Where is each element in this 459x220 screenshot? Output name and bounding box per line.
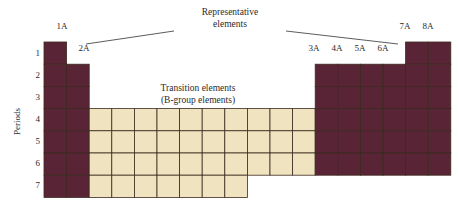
element-cell	[338, 86, 361, 108]
element-cell	[44, 153, 67, 175]
element-cell	[360, 109, 383, 131]
element-cell	[202, 153, 225, 175]
group-label-2A: 2A	[76, 43, 92, 54]
element-cell	[67, 131, 90, 153]
element-cell	[44, 109, 67, 131]
element-cell	[180, 109, 203, 131]
element-cell	[406, 86, 429, 108]
element-cell	[134, 153, 157, 175]
element-cell	[406, 131, 429, 153]
element-cell	[406, 153, 429, 175]
element-cell	[360, 131, 383, 153]
group-label-8A: 8A	[420, 21, 436, 32]
element-cell	[428, 86, 451, 108]
element-cell	[315, 86, 338, 108]
period-label-3: 3	[28, 92, 40, 103]
block-transition-block-period7	[89, 175, 247, 197]
element-cell	[225, 153, 248, 175]
element-cell	[383, 64, 406, 86]
element-cell	[225, 131, 248, 153]
element-cell	[180, 175, 203, 197]
element-cell	[315, 153, 338, 175]
element-cell	[180, 153, 203, 175]
element-cell	[67, 153, 90, 175]
element-cell	[225, 109, 248, 131]
element-cell	[383, 109, 406, 131]
element-cell	[338, 109, 361, 131]
element-cell	[360, 153, 383, 175]
element-cell	[134, 175, 157, 197]
block-groups-7A-8A	[406, 42, 451, 175]
element-cell	[293, 109, 316, 131]
element-cell	[247, 153, 270, 175]
element-cell	[270, 153, 293, 175]
element-cell	[112, 153, 135, 175]
block-group-2A	[67, 64, 90, 197]
block-transition-block	[89, 109, 315, 176]
element-cell	[315, 64, 338, 86]
periodic-table-grid	[0, 0, 459, 220]
element-cell	[293, 131, 316, 153]
element-cell	[338, 64, 361, 86]
group-label-1A: 1A	[54, 21, 70, 32]
element-cell	[383, 153, 406, 175]
element-cell	[360, 86, 383, 108]
element-cell	[112, 109, 135, 131]
element-cell	[157, 153, 180, 175]
element-cell	[157, 175, 180, 197]
element-cell	[338, 153, 361, 175]
element-cell	[44, 175, 67, 197]
element-cell	[406, 42, 429, 64]
period-label-6: 6	[28, 158, 40, 169]
group-label-6A: 6A	[375, 43, 391, 54]
group-label-3A: 3A	[306, 43, 322, 54]
element-cell	[134, 109, 157, 131]
element-cell	[67, 109, 90, 131]
element-cell	[315, 109, 338, 131]
element-cell	[44, 86, 67, 108]
element-cell	[89, 131, 112, 153]
element-cell	[112, 131, 135, 153]
element-cell	[428, 109, 451, 131]
element-cell	[44, 131, 67, 153]
element-cell	[247, 109, 270, 131]
element-cell	[360, 64, 383, 86]
element-cell	[428, 64, 451, 86]
element-cell	[338, 131, 361, 153]
element-cell	[293, 153, 316, 175]
element-cell	[202, 131, 225, 153]
element-cell	[225, 175, 248, 197]
element-cell	[180, 131, 203, 153]
period-label-2: 2	[28, 70, 40, 81]
element-cell	[270, 109, 293, 131]
group-label-5A: 5A	[352, 43, 368, 54]
element-cell	[112, 175, 135, 197]
period-label-7: 7	[28, 180, 40, 191]
group-label-7A: 7A	[397, 21, 413, 32]
element-cell	[270, 131, 293, 153]
periodic-table-figure: Representative elements Transition eleme…	[0, 0, 459, 220]
element-cell	[157, 109, 180, 131]
period-label-5: 5	[28, 136, 40, 147]
element-cell	[44, 42, 67, 64]
element-cell	[89, 109, 112, 131]
element-cell	[67, 175, 90, 197]
element-cell	[44, 64, 67, 86]
element-cell	[247, 131, 270, 153]
element-cell	[428, 131, 451, 153]
period-label-1: 1	[28, 48, 40, 59]
period-label-4: 4	[28, 114, 40, 125]
element-cell	[202, 109, 225, 131]
element-cell	[383, 86, 406, 108]
element-cell	[157, 131, 180, 153]
cells-layer	[44, 42, 451, 197]
block-group-1A	[44, 42, 67, 197]
leader-line-left	[86, 31, 174, 44]
element-cell	[67, 86, 90, 108]
group-label-4A: 4A	[329, 43, 345, 54]
element-cell	[134, 131, 157, 153]
element-cell	[428, 42, 451, 64]
element-cell	[67, 64, 90, 86]
element-cell	[406, 109, 429, 131]
element-cell	[202, 175, 225, 197]
